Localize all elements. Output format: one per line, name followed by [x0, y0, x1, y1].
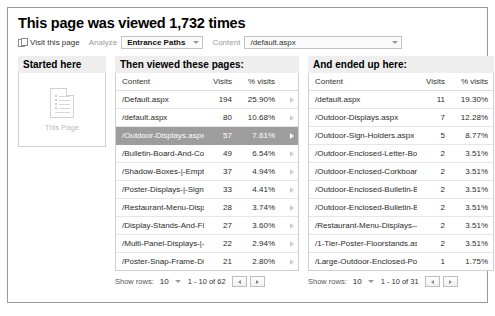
row-drilldown-button[interactable]	[280, 181, 298, 199]
column-header-content[interactable]: Content	[116, 73, 204, 91]
row-drilldown-button[interactable]	[280, 127, 298, 145]
row-visits: 2	[417, 217, 450, 235]
then-viewed-panel: Content Visits % visits /Default.aspx194…	[115, 73, 299, 271]
table-row[interactable]: /Restaurant-Menu-Displays---O23.51%	[309, 217, 493, 235]
table-row[interactable]: /Poster-Displays-|-Sign-Fra334.41%	[116, 181, 298, 199]
table-row[interactable]: /Restaurant-Menu-Displays283.74%	[116, 199, 298, 217]
pagination	[232, 276, 265, 287]
row-content: /Display-Stands-And-Floor-	[116, 217, 204, 235]
table-row[interactable]: /Display-Stands-And-Floor-273.60%	[116, 217, 298, 235]
show-rows-select[interactable]: 10	[353, 277, 374, 286]
chevron-down-icon	[392, 41, 398, 44]
chevron-left-icon	[238, 280, 241, 284]
chevron-left-icon	[431, 280, 434, 284]
row-visits: 57	[204, 127, 237, 145]
chevron-right-icon	[290, 169, 294, 175]
pagination	[425, 276, 458, 287]
ended-here-table: Content Visits % visits /default.aspx111…	[309, 73, 493, 270]
table-row[interactable]: /Outdoor-Displays.aspx577.61%	[116, 127, 298, 145]
table-row[interactable]: /Large-Outdoor-Enclosed-Poste11.75%	[309, 253, 493, 271]
content-dropdown[interactable]: /default.aspx	[244, 36, 402, 49]
table-row[interactable]: /Outdoor-Enclosed-Letter-Boar23.51%	[309, 145, 493, 163]
row-pct: 3.51%	[450, 145, 493, 163]
show-rows-value: 10	[353, 277, 362, 286]
prev-page-button[interactable]	[232, 276, 247, 287]
content-label: Content	[212, 38, 240, 47]
row-content: /Poster-Snap-Frame-Displa	[116, 253, 204, 271]
row-content: /Outdoor-Enclosed-Bulletin-Boa	[309, 199, 417, 217]
column-header-pct[interactable]: % visits	[237, 73, 280, 91]
table-row[interactable]: /Outdoor-Displays.aspx712.28%	[309, 109, 493, 127]
table-row[interactable]: /Outdoor-Sign-Holders.aspx58.77%	[309, 127, 493, 145]
row-drilldown-button[interactable]	[280, 235, 298, 253]
row-pct: 3.51%	[450, 163, 493, 181]
row-content: /1-Tier-Poster-Floorstands.asp	[309, 235, 417, 253]
table-row[interactable]: /default.aspx1119.30%	[309, 91, 493, 109]
table-row[interactable]: /Poster-Snap-Frame-Displa212.80%	[116, 253, 298, 271]
chevron-right-icon	[290, 187, 294, 193]
row-content: /Large-Outdoor-Enclosed-Poste	[309, 253, 417, 271]
row-pct: 19.30%	[450, 91, 493, 109]
table-row[interactable]: /1-Tier-Poster-Floorstands.asp23.51%	[309, 235, 493, 253]
row-pct: 3.74%	[237, 199, 280, 217]
document-icon	[50, 88, 74, 118]
chevron-right-icon	[290, 241, 294, 247]
column-header-visits[interactable]: Visits	[417, 73, 450, 91]
table-row[interactable]: /Multi-Panel-Displays-|-Pos222.94%	[116, 235, 298, 253]
column-header-visits[interactable]: Visits	[204, 73, 237, 91]
row-pct: 7.61%	[237, 127, 280, 145]
column-header-pct[interactable]: % visits	[450, 73, 493, 91]
row-pct: 3.51%	[450, 217, 493, 235]
analyze-dropdown[interactable]: Entrance Paths	[121, 36, 203, 49]
show-rows-select[interactable]: 10	[160, 277, 181, 286]
prev-page-button[interactable]	[425, 276, 440, 287]
chevron-right-icon	[290, 223, 294, 229]
row-pct: 3.51%	[450, 181, 493, 199]
visit-this-page-label: Visit this page	[30, 38, 80, 47]
chevron-down-icon	[368, 280, 374, 283]
chevron-right-icon	[256, 280, 259, 284]
table-row[interactable]: /Outdoor-Enclosed-Bulletin-Boa23.51%	[309, 199, 493, 217]
show-rows-value: 10	[160, 277, 169, 286]
row-drilldown-button[interactable]	[280, 145, 298, 163]
row-drilldown-button[interactable]	[280, 163, 298, 181]
row-drilldown-button[interactable]	[280, 199, 298, 217]
row-visits: 2	[417, 181, 450, 199]
then-viewed-footer: Show rows: 10 1 - 10 of 62	[115, 276, 299, 287]
row-drilldown-button[interactable]	[280, 253, 298, 271]
next-page-button[interactable]	[250, 276, 265, 287]
row-drilldown-button[interactable]	[280, 91, 298, 109]
row-pct: 12.28%	[450, 109, 493, 127]
row-pct: 2.94%	[237, 235, 280, 253]
page-title: This page was viewed 1,732 times	[18, 15, 477, 31]
chevron-right-icon	[449, 280, 452, 284]
table-row[interactable]: /Outdoor-Enclosed-Corkboard-l23.51%	[309, 163, 493, 181]
row-pct: 4.94%	[237, 163, 280, 181]
column-header-content[interactable]: Content	[309, 73, 417, 91]
next-page-button[interactable]	[443, 276, 458, 287]
this-page-card[interactable]: This Page	[18, 73, 106, 147]
table-row[interactable]: /Shadow-Boxes-|-Empty-Wi374.94%	[116, 163, 298, 181]
row-visits: 21	[204, 253, 237, 271]
content-dropdown-value: /default.aspx	[250, 38, 295, 47]
analyze-label: Analyze	[89, 38, 117, 47]
this-page-label: This Page	[45, 123, 79, 132]
row-pct: 3.51%	[450, 199, 493, 217]
table-row[interactable]: /Bulletin-Board-And-Cork-B496.54%	[116, 145, 298, 163]
started-here-column: Started here This Page	[18, 56, 106, 147]
row-pct: 3.60%	[237, 217, 280, 235]
row-content: /Default.aspx	[116, 91, 204, 109]
chevron-right-icon	[290, 97, 294, 103]
table-row[interactable]: /default.aspx8010.68%	[116, 109, 298, 127]
row-drilldown-button[interactable]	[280, 217, 298, 235]
show-rows-label: Show rows:	[115, 277, 154, 286]
show-rows-label: Show rows:	[308, 277, 347, 286]
visit-this-page-link[interactable]: Visit this page	[18, 38, 80, 47]
table-header-row: Content Visits % visits	[116, 73, 298, 91]
table-row[interactable]: /Default.aspx19425.90%	[116, 91, 298, 109]
ended-here-heading: And ended up here:	[308, 56, 494, 73]
row-drilldown-button[interactable]	[280, 109, 298, 127]
row-visits: 37	[204, 163, 237, 181]
table-row[interactable]: /Outdoor-Enclosed-Bulletin-Boa23.51%	[309, 181, 493, 199]
then-viewed-table: Content Visits % visits /Default.aspx194…	[116, 73, 298, 270]
